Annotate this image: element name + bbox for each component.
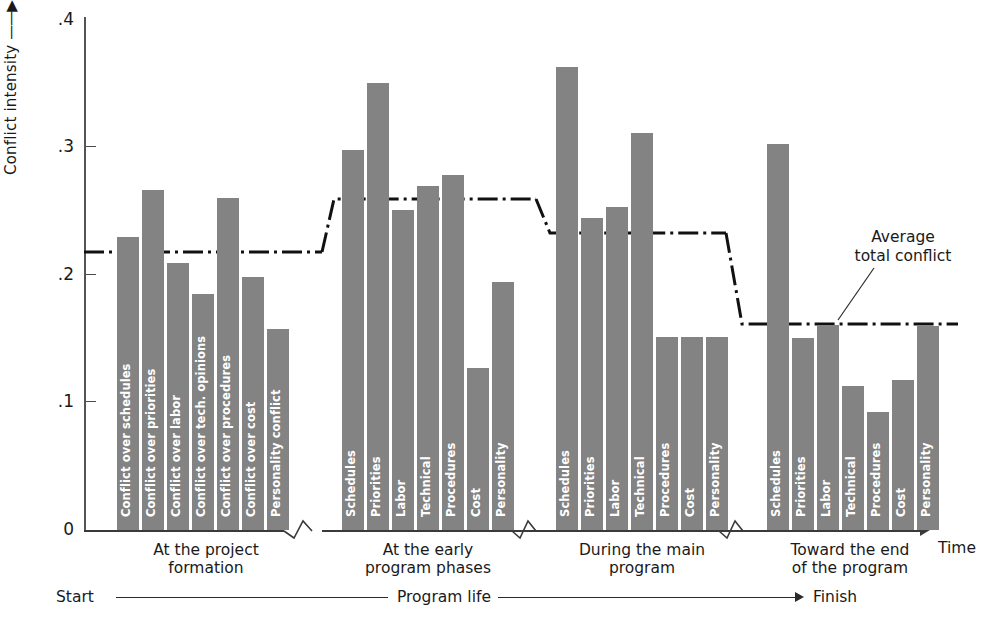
- x-axis-label: Time: [938, 539, 976, 557]
- average-total-conflict-line: [84, 199, 958, 324]
- bar-label-g3-b2: Labor: [821, 480, 833, 517]
- group-label-0: At the project formation: [116, 541, 296, 578]
- x-axis-line: [84, 530, 284, 532]
- bar-label-g2-b3: Technical: [635, 456, 647, 517]
- bar-label-g1-b2: Labor: [396, 480, 408, 517]
- bar-label-g2-b2: Labor: [610, 480, 622, 517]
- y-axis-label-text: Conflict intensity: [2, 45, 20, 175]
- bar-label-g0-b3: Conflict over tech. opinions: [196, 336, 208, 517]
- y-tick-label-0.4: .4: [44, 9, 74, 29]
- y-tick-mark-0.1: [85, 401, 96, 402]
- group-label-2-line2: program: [552, 559, 732, 577]
- timeline-line-right: [498, 597, 796, 598]
- y-tick-label-0.2: .2: [44, 264, 74, 284]
- bar-label-g0-b1: Conflict over priorities: [146, 369, 158, 517]
- annotation-line1: Average: [828, 228, 978, 247]
- bar-label-g3-b5: Cost: [896, 488, 908, 517]
- group-label-3: Toward the end of the program: [760, 541, 940, 578]
- x-axis-line-seg3: [536, 530, 743, 532]
- y-tick-mark-0.2: [85, 274, 96, 275]
- bar-label-g1-b0: Schedules: [346, 450, 358, 517]
- x-axis-line-seg4: [743, 530, 923, 532]
- bar-label-g0-b4: Conflict over procedures: [221, 355, 233, 517]
- bar-label-g3-b3: Technical: [846, 456, 858, 517]
- timeline-arrow-icon: [795, 592, 804, 602]
- bar-label-g3-b6: Personality: [921, 442, 933, 517]
- bar-label-g0-b6: Personality conflict: [271, 389, 283, 517]
- group-label-1-line1: At the early: [338, 541, 518, 559]
- bar-label-g0-b2: Conflict over labor: [171, 395, 183, 517]
- bar-label-g1-b6: Personality: [496, 442, 508, 517]
- timeline-start-label: Start: [56, 588, 94, 606]
- chart-figure: Conflict intensity ——▶ .4 .3 .2 .1 0: [0, 0, 986, 633]
- y-tick-label-0.1: .1: [44, 391, 74, 411]
- timeline-middle-label: Program life: [397, 588, 491, 606]
- group-label-1: At the early program phases: [338, 541, 518, 578]
- y-tick-label-0.3: .3: [44, 136, 74, 156]
- bar-label-g0-b5: Conflict over cost: [246, 402, 258, 517]
- group-label-3-line2: of the program: [760, 559, 940, 577]
- y-tick-mark-0.3: [85, 146, 96, 147]
- bar-label-g2-b0: Schedules: [560, 450, 572, 517]
- y-axis-line: [84, 17, 86, 531]
- group-label-2: During the main program: [552, 541, 732, 578]
- x-axis-line-seg2: [322, 530, 536, 532]
- timeline-line-left: [116, 597, 388, 598]
- annotation-line2: total conflict: [828, 247, 978, 266]
- bar-label-g2-b5: Cost: [685, 488, 697, 517]
- annotation-leader-line: [838, 268, 874, 320]
- bar-label-g1-b3: Technical: [421, 456, 433, 517]
- bar-label-g2-b6: Personality: [710, 442, 722, 517]
- y-axis-arrow-icon: ——▶: [2, 1, 20, 40]
- group-label-0-line1: At the project: [116, 541, 296, 559]
- group-label-1-line2: program phases: [338, 559, 518, 577]
- y-tick-label-0: 0: [44, 519, 74, 539]
- bar-label-g1-b5: Cost: [471, 488, 483, 517]
- bar-label-g1-b1: Priorities: [371, 456, 383, 517]
- group-label-0-line2: formation: [116, 559, 296, 577]
- timeline-finish-label: Finish: [813, 588, 857, 606]
- group-label-2-line1: During the main: [552, 541, 732, 559]
- bar-label-g2-b4: Procedures: [660, 443, 672, 517]
- bar-label-g0-b0: Conflict over schedules: [121, 363, 133, 517]
- bar-label-g2-b1: Priorities: [585, 456, 597, 517]
- bar-label-g3-b1: Priorities: [796, 456, 808, 517]
- y-axis-label: Conflict intensity ——▶: [2, 0, 20, 175]
- bar-label-g3-b4: Procedures: [871, 443, 883, 517]
- bar-label-g1-b4: Procedures: [446, 443, 458, 517]
- annotation-average-total-conflict: Average total conflict: [828, 228, 978, 265]
- group-label-3-line1: Toward the end: [760, 541, 940, 559]
- bar-label-g3-b0: Schedules: [771, 450, 783, 517]
